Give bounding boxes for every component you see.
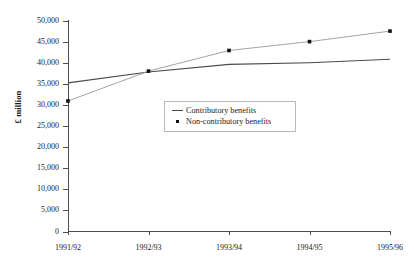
- data-point-marker: [308, 40, 312, 44]
- chart-container: £ million 50,00045,00040,00035,00030,000…: [0, 0, 414, 272]
- legend-item-contributory: Contributory benefits: [169, 105, 290, 116]
- data-point-marker: [388, 29, 392, 33]
- legend-label-contributory: Contributory benefits: [186, 105, 256, 116]
- data-point-marker: [147, 69, 151, 73]
- line-swatch-icon: [169, 110, 186, 112]
- legend-item-non-contributory: Non-contributory benefits: [169, 116, 290, 127]
- legend-label-non-contributory: Non-contributory benefits: [186, 116, 271, 127]
- plot-area: [0, 0, 414, 272]
- data-point-marker: [66, 99, 70, 103]
- series-line-contributory: [68, 59, 390, 83]
- series-line-non-contributory: [68, 31, 390, 101]
- chart-legend: Contributory benefits Non-contributory b…: [164, 101, 296, 132]
- data-point-marker: [227, 49, 231, 53]
- dot-swatch-icon: [169, 120, 186, 124]
